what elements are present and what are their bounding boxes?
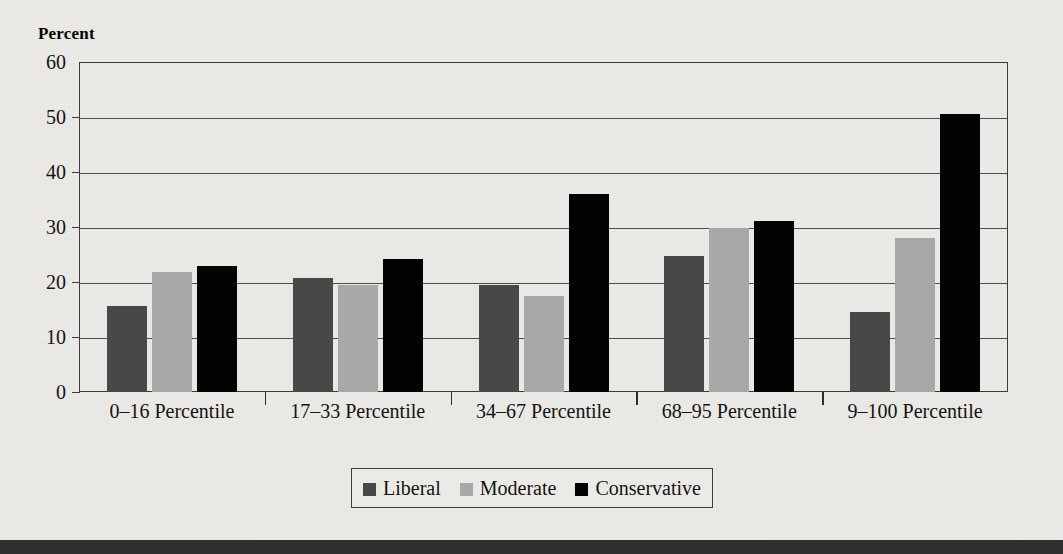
x-group-label: 0–16 Percentile bbox=[109, 400, 234, 423]
group-separator-tick bbox=[265, 392, 267, 405]
plot-area-frame bbox=[79, 62, 1008, 392]
bottom-band bbox=[0, 540, 1063, 554]
x-group-label: 68–95 Percentile bbox=[662, 400, 797, 423]
y-tick-label: 10 bbox=[0, 326, 66, 349]
y-tick-label: 30 bbox=[0, 216, 66, 239]
legend-item-moderate[interactable]: Moderate bbox=[460, 477, 557, 500]
y-axis-title: Percent bbox=[38, 24, 95, 44]
legend-item-liberal[interactable]: Liberal bbox=[363, 477, 441, 500]
y-tick-mark bbox=[72, 392, 80, 393]
gridline bbox=[80, 283, 1007, 284]
x-group-label: 17–33 Percentile bbox=[290, 400, 425, 423]
legend-label: Moderate bbox=[480, 477, 557, 500]
group-separator-tick bbox=[636, 392, 638, 405]
y-tick-label: 40 bbox=[0, 161, 66, 184]
x-group-label: 9–100 Percentile bbox=[848, 400, 983, 423]
gridline bbox=[80, 338, 1007, 339]
chart-legend: LiberalModerateConservative bbox=[351, 468, 713, 508]
gridline bbox=[80, 118, 1007, 119]
x-group-label: 34–67 Percentile bbox=[476, 400, 611, 423]
gridline bbox=[80, 173, 1007, 174]
bar-chart-figure: Percent 0102030405060 0–16 Percentile17–… bbox=[0, 0, 1063, 554]
legend-item-conservative[interactable]: Conservative bbox=[575, 477, 701, 500]
legend-label: Conservative bbox=[595, 477, 701, 500]
group-separator-tick bbox=[822, 392, 824, 405]
legend-swatch-conservative-icon bbox=[575, 483, 588, 496]
legend-swatch-moderate-icon bbox=[460, 483, 473, 496]
y-tick-label: 0 bbox=[0, 381, 66, 404]
legend-swatch-liberal-icon bbox=[363, 483, 376, 496]
y-tick-label: 60 bbox=[0, 51, 66, 74]
legend-label: Liberal bbox=[383, 477, 441, 500]
y-tick-label: 50 bbox=[0, 106, 66, 129]
group-separator-tick bbox=[451, 392, 453, 405]
gridline bbox=[80, 228, 1007, 229]
y-tick-label: 20 bbox=[0, 271, 66, 294]
